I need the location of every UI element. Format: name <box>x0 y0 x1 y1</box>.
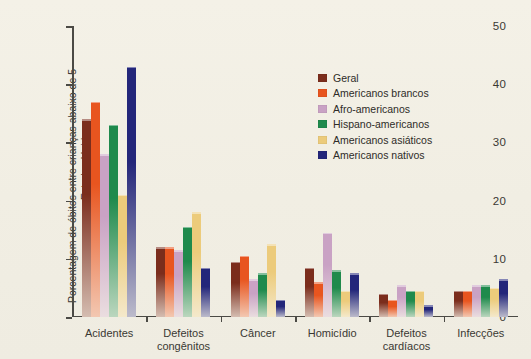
bar-highlight <box>415 291 424 293</box>
bar <box>424 305 433 317</box>
bar-highlight <box>156 247 165 249</box>
bar-group <box>155 26 211 317</box>
bar <box>109 125 118 317</box>
legend-label: Hispano-americanos <box>333 118 429 130</box>
bar-highlight <box>388 300 397 302</box>
bar <box>183 227 192 317</box>
bar <box>415 291 424 317</box>
bar-group <box>81 26 137 317</box>
bar <box>100 154 109 317</box>
bar-highlight <box>100 154 109 156</box>
bar <box>305 268 314 317</box>
category-label: Homicídio <box>295 327 369 340</box>
x-tick-mark <box>444 317 446 322</box>
legend-item: Hispano-americanos <box>318 118 432 130</box>
bar-highlight <box>424 305 433 307</box>
bar-highlight <box>91 102 100 104</box>
bar <box>472 285 481 317</box>
bar-highlight <box>249 279 258 281</box>
bar-highlight <box>127 67 136 69</box>
legend-label: Americanos nativos <box>333 149 425 161</box>
bar <box>91 102 100 317</box>
bar-group <box>453 26 509 317</box>
bar <box>463 291 472 317</box>
bar-highlight <box>231 262 240 264</box>
bar-highlight <box>472 285 481 287</box>
legend-item: Geral <box>318 72 432 84</box>
bar-highlight <box>323 233 332 235</box>
bar-highlight <box>118 195 127 197</box>
bar <box>332 270 341 317</box>
bar-highlight <box>379 294 388 296</box>
y-tick-mark <box>66 26 72 28</box>
bar-group <box>230 26 286 317</box>
legend-item: Americanos nativos <box>318 149 432 161</box>
bar-highlight <box>109 125 118 127</box>
y-tick-mark <box>66 259 72 261</box>
bar-highlight <box>314 282 323 284</box>
bar-highlight <box>201 268 210 270</box>
bar-highlight <box>406 291 415 293</box>
bar-highlight <box>82 119 91 121</box>
bar-highlight <box>463 291 472 293</box>
bar <box>350 273 359 317</box>
bar <box>490 288 499 317</box>
bar <box>267 244 276 317</box>
bar-highlight <box>490 288 499 290</box>
bar <box>258 273 267 317</box>
y-tick-mark <box>66 84 72 86</box>
bar-highlight <box>258 273 267 275</box>
bar <box>314 282 323 317</box>
legend-label: Americanos brancos <box>333 87 429 99</box>
bar-highlight <box>276 300 285 302</box>
y-tick-mark <box>66 201 72 203</box>
bar <box>174 250 183 317</box>
bar <box>341 291 350 317</box>
bar-highlight <box>350 273 359 275</box>
bar <box>406 291 415 317</box>
chart-legend: GeralAmericanos brancosAfro-americanosHi… <box>318 72 432 161</box>
legend-item: Americanos asiáticos <box>318 134 432 146</box>
plot-area: Porcentagem de óbitos entre crianças aba… <box>72 26 518 317</box>
legend-swatch-icon <box>318 136 327 144</box>
bar <box>156 247 165 317</box>
bar <box>276 300 285 317</box>
x-tick-mark <box>221 317 223 322</box>
bar <box>397 285 406 317</box>
legend-label: Americanos asiáticos <box>333 134 432 146</box>
bar-highlight <box>481 285 490 287</box>
x-tick-mark <box>295 317 297 322</box>
bar <box>231 262 240 317</box>
x-tick-mark <box>369 317 371 322</box>
legend-label: Afro-americanos <box>333 103 410 115</box>
bar-highlight <box>174 250 183 252</box>
category-label: Câncer <box>221 327 295 340</box>
bar <box>454 291 463 317</box>
bar-highlight <box>499 279 508 281</box>
bar-group <box>378 26 434 317</box>
bar <box>323 233 332 317</box>
bar-group <box>304 26 360 317</box>
legend-item: Americanos brancos <box>318 87 432 99</box>
bar-highlight <box>267 244 276 246</box>
legend-label: Geral <box>333 72 359 84</box>
bar <box>481 285 490 317</box>
x-tick-mark <box>146 317 148 322</box>
y-tick-mark <box>66 142 72 144</box>
bar-highlight <box>240 256 249 258</box>
bar-highlight <box>397 285 406 287</box>
bar-highlight <box>305 268 314 270</box>
category-label: Infecções <box>444 327 518 340</box>
bar <box>118 195 127 317</box>
bar <box>240 256 249 317</box>
bar-highlight <box>165 247 174 249</box>
bar <box>192 212 201 317</box>
bar-highlight <box>183 227 192 229</box>
bar-highlight <box>332 270 341 272</box>
category-label: Acidentes <box>72 327 146 340</box>
category-label: Defeitos congênitos <box>146 327 220 352</box>
bar-highlight <box>192 212 201 214</box>
legend-swatch-icon <box>318 74 327 82</box>
bar-highlight <box>341 291 350 293</box>
legend-item: Afro-americanos <box>318 103 432 115</box>
